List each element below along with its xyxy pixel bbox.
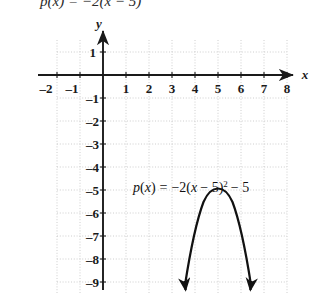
parabola-arrow-left [185, 281, 186, 290]
top-cropped-text: p(x) = −2(x − 5) [39, 0, 141, 10]
equation-exponent: 2 [223, 179, 228, 189]
equation-constant: − 5 [231, 180, 249, 195]
x-tick-label-8: 8 [284, 81, 291, 96]
figure-page: –2 –1 1 2 3 4 5 6 7 8 1 –1 –2 –3 –4 –5 –… [0, 0, 320, 299]
x-tick-label-2: 2 [146, 81, 153, 96]
equation-minus-five: − 5) [200, 180, 223, 196]
y-tick-label--5: –5 [85, 183, 100, 198]
equation-inner-var: x [190, 180, 198, 195]
y-tick-label--8: –8 [85, 252, 100, 267]
x-tick-label-4: 4 [192, 81, 199, 96]
x-tick-label--1: –1 [65, 81, 79, 96]
x-axis-label: x [301, 67, 309, 82]
y-tick-label--1: –1 [85, 91, 99, 106]
equation-lead: p [132, 180, 140, 195]
y-tick-label--7: –7 [85, 229, 100, 244]
x-tick-label-3: 3 [169, 81, 176, 96]
equation-paren-close: ) [151, 180, 156, 196]
equation-coefficient: −2( [171, 180, 191, 196]
top-cropped-text-line: p(x) = −2(x − 5) [39, 0, 141, 10]
y-tick-label--6: –6 [85, 206, 100, 221]
y-tick-label--2: –2 [85, 114, 99, 129]
y-tick-label-1: 1 [90, 45, 97, 60]
equation-annotation: p(x)=−2(x− 5)2− 5 [132, 179, 249, 196]
x-tick-label-5: 5 [215, 81, 222, 96]
y-tick-label--4: –4 [85, 160, 100, 175]
parabola-arrow-right [250, 281, 251, 290]
x-tick-label-1: 1 [123, 81, 130, 96]
y-tick-label--9: –9 [85, 275, 100, 290]
y-tick-label--3: –3 [85, 137, 100, 152]
graph-figure: –2 –1 1 2 3 4 5 6 7 8 1 –1 –2 –3 –4 –5 –… [0, 0, 320, 299]
x-tick-label--2: –2 [39, 81, 53, 96]
equation-equals: = [160, 180, 168, 195]
x-tick-label-6: 6 [238, 81, 245, 96]
x-tick-label-7: 7 [261, 81, 268, 96]
y-axis-label: y [94, 16, 102, 31]
